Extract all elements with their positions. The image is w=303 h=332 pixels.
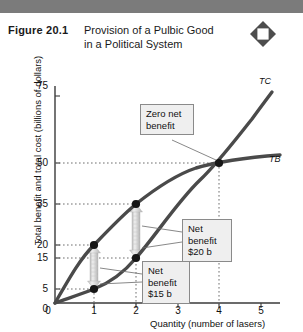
annotation-zero-line-2: benefit	[146, 120, 188, 132]
annotation-n20-line-3: $20 b	[188, 246, 226, 258]
figure-title: Provision of a Pulbic Good in a Politica…	[84, 23, 234, 51]
annotation-n15-line-3: $15 b	[148, 288, 184, 300]
annotation-zero-net-benefit: Zero net benefit	[140, 104, 194, 135]
top-banner	[0, 0, 303, 13]
x-tick-label-0: 0	[40, 305, 56, 316]
y-axis-title: Total benefit and total cost (billions o…	[32, 43, 43, 258]
curve-label-tc: TC	[259, 76, 271, 86]
annotation-n15-line-1: Net	[148, 265, 184, 277]
y-axis-ticks	[55, 96, 60, 289]
annotation-n15-line-2: benefit	[148, 277, 184, 289]
x-axis-title: Quantity (number of lasers)	[150, 318, 265, 329]
net-benefit-arrow-q2	[130, 204, 143, 258]
y-tick-label-5: 5	[28, 283, 48, 294]
x-tick-label-2: 2	[128, 305, 144, 316]
figure-title-line-2: in a Political System	[84, 37, 234, 51]
annotation-net-benefit-15: Net benefit $15 b	[142, 261, 190, 304]
figure-title-line-1: Provision of a Pulbic Good	[84, 23, 234, 37]
marker-tb-q2	[132, 200, 140, 208]
x-tick-label-4: 4	[211, 305, 227, 316]
marker-tc-q2	[132, 254, 140, 262]
figure-number-label: Figure 20.1	[8, 24, 68, 36]
curve-label-tb: TB	[269, 154, 281, 164]
x-tick-label-1: 1	[86, 305, 102, 316]
x-tick-label-3: 3	[170, 305, 186, 316]
annotation-n20-line-2: benefit	[188, 235, 226, 247]
diamond-badge-icon	[249, 20, 277, 48]
x-tick-label-5: 5	[253, 305, 269, 316]
marker-tb-q1	[90, 241, 98, 249]
annotation-net-benefit-20: Net benefit $20 b	[182, 219, 232, 262]
marker-tc-q1	[90, 285, 98, 293]
marker-intersection-q4	[215, 159, 223, 167]
annotation-zero-line-1: Zero net	[146, 108, 188, 120]
annotation-n20-line-1: Net	[188, 223, 226, 235]
figure-panel: Figure 20.1 Provision of a Pulbic Good i…	[0, 0, 303, 332]
